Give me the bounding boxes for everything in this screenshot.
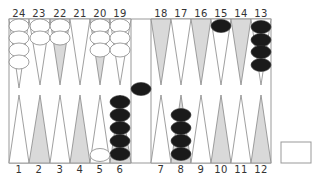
black-checker[interactable] — [251, 46, 271, 59]
black-checker[interactable] — [171, 109, 191, 122]
bar-black-checker[interactable] — [131, 83, 151, 96]
black-checker[interactable] — [171, 148, 191, 161]
board-graphic — [0, 0, 316, 185]
black-checker[interactable] — [110, 109, 130, 122]
black-checker[interactable] — [171, 135, 191, 148]
white-checker[interactable] — [110, 43, 130, 57]
white-checker[interactable] — [50, 31, 70, 45]
black-checker[interactable] — [110, 96, 130, 109]
black-checker[interactable] — [171, 122, 191, 135]
white-checker[interactable] — [90, 43, 110, 57]
black-checker[interactable] — [251, 34, 271, 47]
black-checker[interactable] — [110, 122, 130, 135]
black-checker[interactable] — [110, 135, 130, 148]
doubling-cube[interactable] — [281, 142, 311, 163]
point-label-5: 5 — [90, 164, 110, 175]
point-label-6: 6 — [110, 164, 130, 175]
black-checker[interactable] — [251, 59, 271, 72]
point-label-10: 10 — [211, 164, 231, 175]
white-checker[interactable] — [30, 31, 50, 45]
point-label-1: 1 — [9, 164, 29, 175]
point-label-2: 2 — [29, 164, 49, 175]
point-label-4: 4 — [70, 164, 90, 175]
point-label-7: 7 — [151, 164, 171, 175]
black-checker[interactable] — [110, 148, 130, 161]
black-checker[interactable] — [211, 20, 231, 33]
white-checker[interactable] — [9, 55, 29, 69]
white-checker[interactable] — [90, 149, 110, 162]
point-label-9: 9 — [191, 164, 211, 175]
point-label-3: 3 — [50, 164, 70, 175]
point-label-11: 11 — [231, 164, 251, 175]
black-checker[interactable] — [251, 21, 271, 34]
point-label-12: 12 — [251, 164, 271, 175]
point-label-8: 8 — [171, 164, 191, 175]
